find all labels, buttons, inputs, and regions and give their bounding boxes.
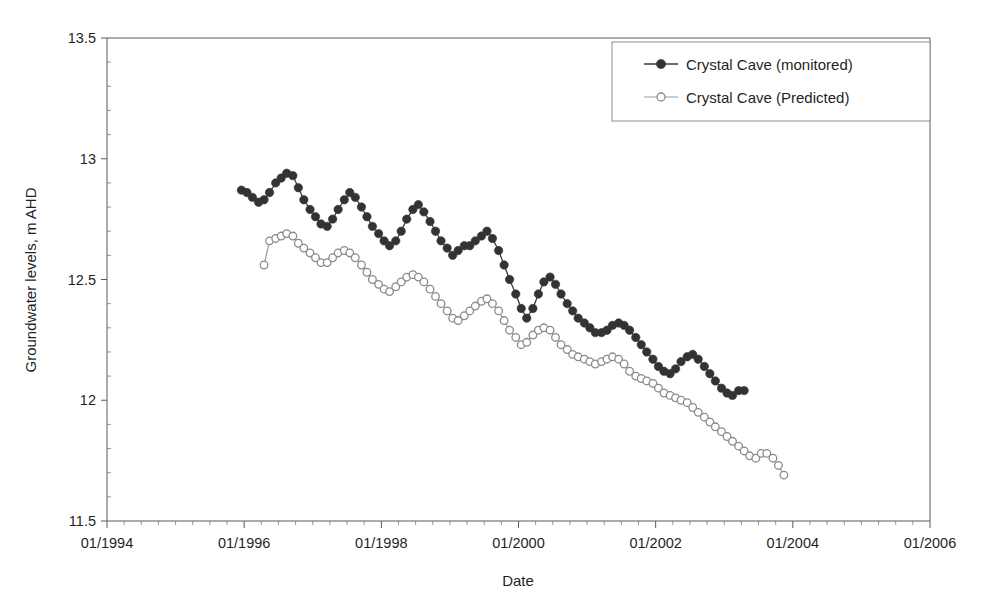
legend-label: Crystal Cave (monitored) [686,56,853,73]
y-tick-label: 13.5 [68,30,96,46]
x-tick-label: 01/2002 [629,535,681,551]
data-point-marker [494,246,502,254]
data-point-marker [500,261,508,269]
data-point-marker [534,290,542,298]
data-point-marker [546,326,554,334]
data-point-marker [289,171,297,179]
data-point-marker [637,341,645,349]
data-point-marker [426,285,434,293]
legend-label: Crystal Cave (Predicted) [686,89,849,106]
x-tick-label: 01/2006 [904,535,956,551]
data-point-marker [489,300,497,308]
data-point-marker [505,275,513,283]
data-point-marker [432,293,440,301]
chart-legend: Crystal Cave (monitored)Crystal Cave (Pr… [612,42,930,121]
data-point-marker [323,222,331,230]
data-point-marker [403,215,411,223]
data-point-marker [517,304,525,312]
data-point-marker [740,386,748,394]
data-point-marker [443,244,451,252]
data-point-marker [420,278,428,286]
x-tick-label: 01/1994 [81,535,133,551]
data-point-marker [523,314,531,322]
legend-marker-swatch [657,93,665,101]
data-point-marker [265,188,273,196]
y-tick-label: 13 [80,151,96,167]
data-point-marker [568,307,576,315]
data-point-marker [694,355,702,363]
data-point-marker [431,227,439,235]
data-point-marker [769,454,777,462]
data-point-marker [340,196,348,204]
data-point-marker [397,227,405,235]
data-point-marker [483,227,491,235]
data-point-marker [420,208,428,216]
y-tick-label: 12.5 [68,272,96,288]
data-point-marker [437,237,445,245]
data-point-marker [523,338,531,346]
data-point-marker [620,360,628,368]
y-tick-label: 11.5 [69,513,96,529]
data-point-marker [780,471,788,479]
y-tick-label: 12 [80,392,96,408]
data-point-marker [546,273,554,281]
data-point-marker [706,369,714,377]
data-point-marker [306,205,314,213]
data-point-marker [260,196,268,204]
data-point-marker [328,215,336,223]
data-point-marker [529,304,537,312]
data-point-marker [643,348,651,356]
data-point-marker [563,299,571,307]
data-point-marker [512,334,520,342]
data-point-marker [289,232,297,240]
data-point-marker [374,229,382,237]
groundwater-levels-line-chart: 11.51212.51313.501/199401/199601/199801/… [0,0,996,614]
chart-figure: 11.51212.51313.501/199401/199601/199801/… [0,0,996,614]
data-point-marker [649,355,657,363]
data-point-marker [334,205,342,213]
data-point-marker [351,254,359,262]
x-tick-label: 01/1998 [355,535,407,551]
data-point-marker [495,307,503,315]
data-point-marker [368,222,376,230]
data-point-marker [426,217,434,225]
data-point-marker [392,237,400,245]
data-point-marker [671,365,679,373]
data-point-marker [632,333,640,341]
data-point-marker [358,261,366,269]
data-point-marker [506,326,514,334]
data-point-marker [414,200,422,208]
x-tick-label: 01/2004 [767,535,819,551]
data-point-marker [311,213,319,221]
data-point-marker [363,268,371,276]
data-point-marker [300,196,308,204]
data-point-marker [552,334,560,342]
x-tick-label: 01/2000 [492,535,544,551]
data-point-marker [294,184,302,192]
data-point-marker [357,203,365,211]
data-point-marker [775,462,783,470]
x-tick-label: 01/1996 [218,535,270,551]
y-axis-title: Groundwater levels, m AHD [22,187,39,372]
data-point-marker [557,290,565,298]
data-point-marker [500,317,508,325]
data-point-marker [551,280,559,288]
data-point-marker [443,307,451,315]
data-point-marker [351,193,359,201]
data-point-marker [260,261,268,269]
data-point-marker [700,362,708,370]
data-point-marker [625,326,633,334]
data-point-marker [711,377,719,385]
x-axis-title: Date [502,572,534,589]
legend-marker-swatch [656,59,665,68]
data-point-marker [437,300,445,308]
legend-background [612,42,930,121]
data-point-marker [512,290,520,298]
data-point-marker [363,213,371,221]
data-point-marker [488,234,496,242]
